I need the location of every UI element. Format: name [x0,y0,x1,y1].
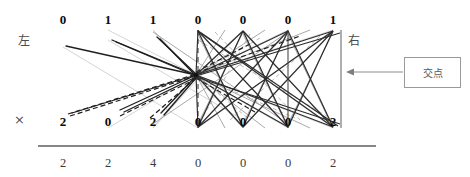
digit-top-6: 1 [324,12,342,28]
digit-sum-4: 0 [234,155,252,171]
left-label: 左 [18,34,30,48]
digit-sum-1: 2 [99,155,117,171]
digit-mid-5: 0 [279,114,297,130]
digit-top-5: 0 [279,12,297,28]
dark-ray-group [66,37,196,115]
digit-sum-5: 0 [279,155,297,171]
digit-sum-2: 4 [144,155,162,171]
callout-arrow [346,69,403,76]
digit-top-2: 1 [144,12,162,28]
intersection-node [194,73,198,77]
callout-box: 交点 [404,57,461,88]
digit-mid-4: 0 [234,114,252,130]
digit-sum-3: 0 [189,155,207,171]
digit-mid-6: 2 [324,114,342,130]
dark-crossing-group [196,30,340,128]
digit-top-0: 0 [54,12,72,28]
digit-mid-3: 0 [189,114,207,130]
digit-top-1: 1 [99,12,117,28]
digit-mid-2: 2 [144,114,162,130]
digit-mid-0: 2 [54,114,72,130]
digit-top-4: 0 [234,12,252,28]
callout-label: 交点 [423,65,443,80]
digit-sum-0: 2 [54,155,72,171]
digit-sum-6: 2 [324,155,342,171]
digit-mid-1: 0 [99,114,117,130]
multiply-symbol: × [14,112,25,127]
digit-top-3: 0 [189,12,207,28]
right-label: 右 [348,34,360,48]
diagram-canvas: 左 右 × 0 1 1 0 0 0 1 2 0 2 0 0 0 2 2 2 4 … [0,0,470,177]
